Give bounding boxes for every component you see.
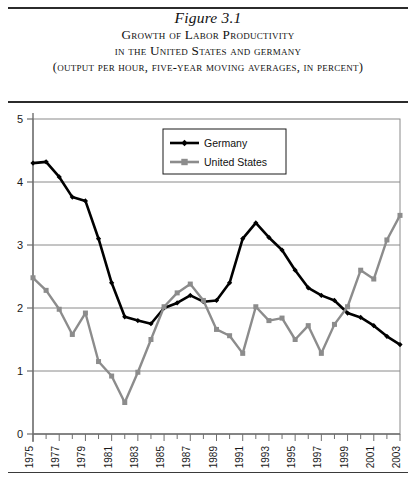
y-tick-label: 2: [17, 302, 23, 314]
legend-label: Germany: [204, 137, 248, 149]
x-tick-label: 1993: [260, 446, 271, 469]
data-point: [398, 213, 403, 218]
data-point: [135, 370, 140, 375]
data-point: [319, 351, 324, 356]
data-point: [57, 307, 62, 312]
chart-legend: GermanyUnited States: [163, 129, 286, 174]
title-line-3: (output per hour, five-year moving avera…: [0, 59, 416, 75]
y-tick-label: 0: [17, 428, 23, 440]
data-point: [109, 374, 114, 379]
data-point: [44, 288, 49, 293]
x-tick-label: 1985: [155, 446, 166, 469]
x-tick-label: 1975: [24, 446, 35, 469]
x-tick-label: 1977: [50, 446, 61, 469]
title-line-2: in the United States and germany: [0, 43, 416, 59]
data-point: [214, 327, 219, 332]
data-point: [148, 337, 153, 342]
data-point: [371, 277, 376, 282]
data-point: [345, 304, 350, 309]
x-tick-label: 1987: [181, 446, 192, 469]
x-tick-label: 2003: [391, 446, 402, 469]
data-point: [83, 311, 88, 316]
x-tick-label: 1983: [129, 446, 140, 469]
x-tick-label: 1991: [234, 446, 245, 469]
data-point: [96, 359, 101, 364]
data-point: [280, 316, 285, 321]
data-point: [358, 268, 363, 273]
x-tick-label: 1981: [103, 446, 114, 469]
x-tick-label: 2001: [365, 446, 376, 469]
data-point: [253, 304, 258, 309]
data-point: [122, 400, 127, 405]
plot-area: 012345 197519771979198119831985198719891…: [0, 104, 416, 480]
x-axis-ticks: 1975197719791981198319851987198919911993…: [24, 434, 402, 468]
title-block: Figure 3.1 Growth of Labor Productivity …: [0, 9, 416, 75]
title-line-1: Growth of Labor Productivity: [0, 27, 416, 43]
data-point: [384, 237, 389, 242]
title-rule-bottom: [8, 101, 408, 103]
series-united-states: [31, 213, 403, 405]
legend-label: United States: [204, 156, 267, 168]
data-point: [70, 332, 75, 337]
data-point: [306, 323, 311, 328]
y-tick-label: 3: [17, 239, 23, 251]
y-tick-label: 1: [17, 365, 23, 377]
data-point: [240, 351, 245, 356]
x-tick-label: 1979: [76, 446, 87, 469]
data-point: [162, 304, 167, 309]
y-tick-label: 4: [17, 176, 23, 188]
data-point: [175, 290, 180, 295]
line-chart: 012345 197519771979198119831985198719891…: [0, 104, 416, 480]
y-tick-label: 5: [17, 113, 23, 125]
data-point: [227, 333, 232, 338]
data-point: [201, 298, 206, 303]
x-tick-label: 1999: [339, 446, 350, 469]
data-series-layer: [30, 159, 402, 405]
data-point: [266, 318, 271, 323]
x-tick-label: 1995: [286, 446, 297, 469]
data-point: [332, 322, 337, 327]
data-point: [293, 337, 298, 342]
data-point: [188, 282, 193, 287]
figure-number: Figure 3.1: [0, 9, 416, 27]
data-point: [31, 275, 36, 280]
data-point: [30, 161, 35, 166]
figure-container: Figure 3.1 Growth of Labor Productivity …: [0, 0, 416, 480]
figure-rule-bottom: [8, 472, 408, 473]
x-tick-label: 1997: [312, 446, 323, 469]
x-tick-label: 1989: [208, 446, 219, 469]
